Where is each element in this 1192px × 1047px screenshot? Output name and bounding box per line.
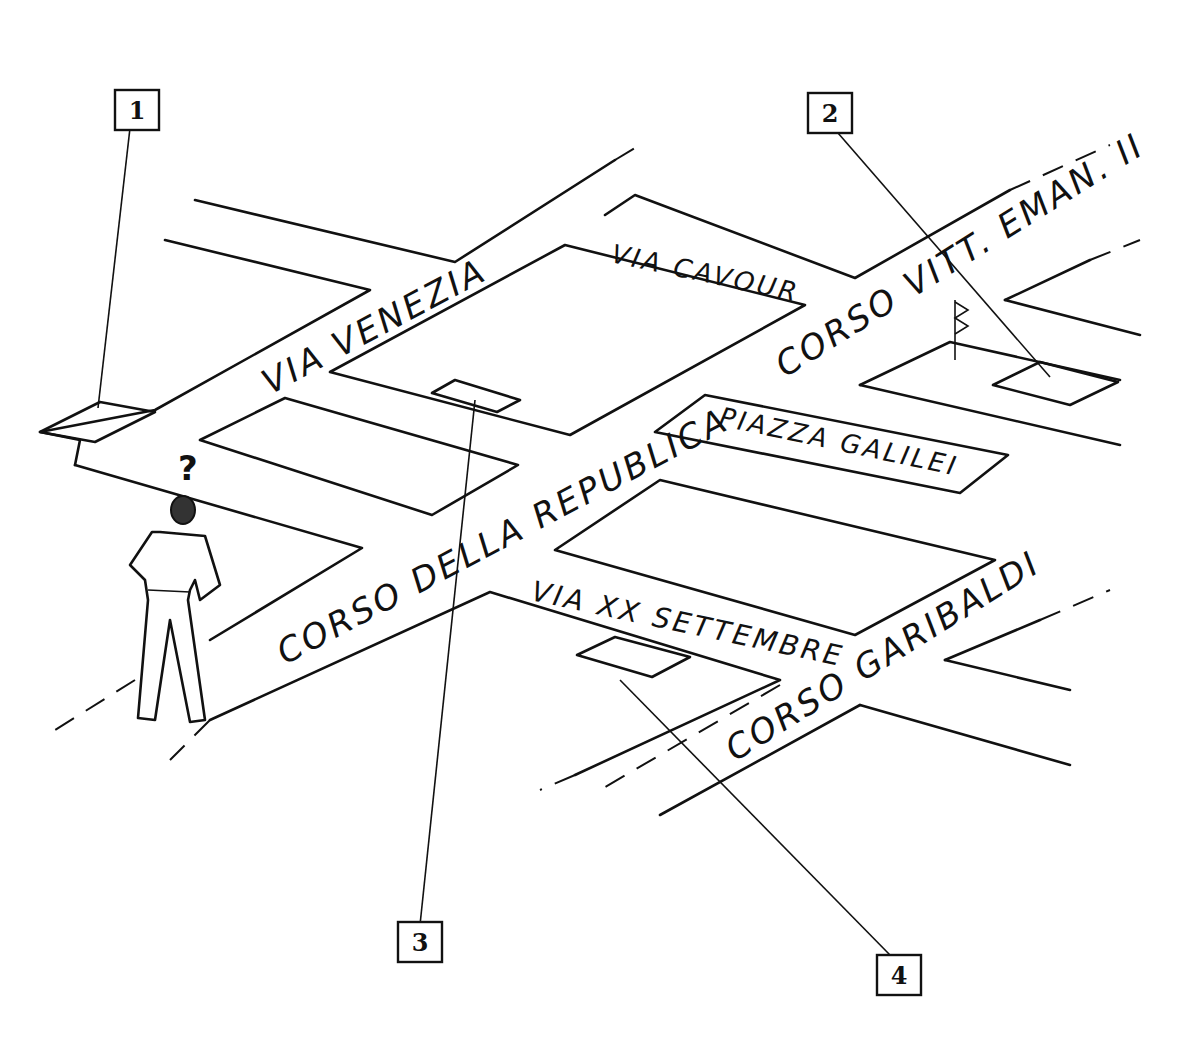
label-corso-vitt-eman: CORSO VITT. EMAN. II [768,125,1151,385]
street-map-diagram: VIA VENEZIA VIA CAVOUR CORSO VITT. EMAN.… [0,0,1192,1047]
callout-4: 4 [877,955,921,995]
label-via-venezia: VIA VENEZIA [255,250,493,402]
svg-text:2: 2 [822,99,839,128]
svg-text:3: 3 [412,928,429,957]
svg-text:4: 4 [891,961,908,990]
callout-3: 3 [398,922,442,962]
svg-text:1: 1 [129,96,146,125]
question-mark: ? [178,448,198,488]
label-via-cavour: VIA CAVOUR [609,239,803,308]
confused-person-figure: ? [130,448,220,722]
callout-2: 2 [808,93,852,133]
callout-1: 1 [115,90,159,130]
callout-leaders [98,128,1050,955]
